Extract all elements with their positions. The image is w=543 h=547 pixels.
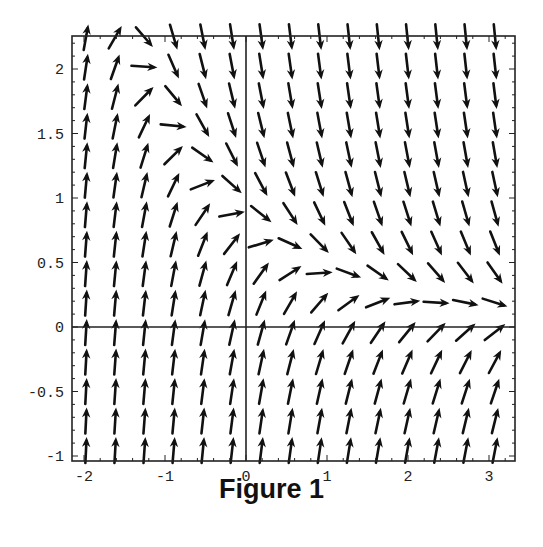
slope-arrow	[462, 172, 470, 197]
slope-arrow	[372, 232, 385, 255]
slope-arrow	[170, 25, 179, 50]
slope-arrow	[141, 349, 149, 375]
y-tick-label: 1	[55, 191, 64, 208]
slope-arrow	[249, 239, 274, 248]
slope-arrow	[316, 437, 324, 463]
slope-arrow	[199, 408, 207, 434]
slope-arrow	[170, 378, 178, 404]
slope-arrow	[453, 299, 478, 307]
slope-arrow	[307, 269, 333, 277]
slope-arrow	[316, 83, 324, 109]
slope-arrow	[164, 146, 182, 164]
slope-arrow	[287, 378, 295, 403]
y-tick-label: 2	[55, 62, 64, 79]
slope-arrow	[258, 437, 266, 463]
slope-arrow	[431, 350, 442, 374]
slope-arrow	[192, 148, 213, 163]
slope-arrow	[345, 142, 353, 167]
slope-arrow	[168, 55, 178, 79]
slope-arrow	[229, 84, 237, 109]
slope-arrow	[141, 319, 149, 345]
slope-arrow	[344, 202, 354, 226]
slope-arrow	[287, 349, 295, 374]
slope-arrow	[199, 349, 207, 375]
slope-arrow	[342, 233, 357, 254]
slope-arrow	[374, 202, 383, 227]
slope-arrow	[251, 206, 271, 222]
slope-arrow	[428, 323, 446, 342]
slope-arrow	[283, 203, 297, 225]
slope-arrow	[197, 114, 210, 137]
slope-arrow	[287, 24, 295, 50]
slope-arrow	[316, 24, 324, 50]
slope-arrow	[433, 408, 441, 433]
slope-arrow	[258, 83, 266, 109]
slope-arrow	[316, 349, 325, 374]
slope-arrow	[258, 54, 266, 80]
slope-arrow	[491, 142, 499, 168]
slope-arrow	[140, 408, 148, 434]
slope-arrow	[374, 83, 382, 109]
slope-arrow	[404, 408, 412, 433]
slope-arrow	[140, 437, 148, 463]
slope-arrow	[462, 113, 470, 139]
slope-arrow	[345, 54, 353, 80]
slope-arrow	[141, 231, 149, 257]
slope-arrow	[229, 54, 237, 80]
slope-arrow	[170, 231, 178, 256]
slope-arrow	[111, 378, 119, 404]
slope-arrow	[82, 260, 90, 286]
slope-arrow	[170, 349, 178, 375]
slope-arrow	[431, 232, 442, 256]
slope-arrow	[199, 319, 207, 345]
slope-arrow	[111, 260, 119, 286]
slope-arrow	[492, 408, 500, 433]
slope-arrow	[490, 232, 500, 256]
y-tick-label: -0.5	[28, 385, 64, 402]
slope-arrow	[257, 143, 266, 168]
slope-arrow	[111, 54, 120, 79]
slope-arrow	[141, 378, 149, 404]
slope-arrow	[111, 290, 119, 316]
y-tick-label: 0.5	[37, 256, 64, 273]
slope-arrow	[199, 378, 207, 404]
slope-arrow	[287, 54, 295, 80]
slope-arrow	[311, 234, 329, 253]
slope-arrow	[395, 298, 421, 306]
slope-arrow	[492, 172, 500, 197]
slope-arrow	[433, 202, 442, 227]
slope-arrow	[228, 113, 237, 138]
y-tick-label: 1.5	[37, 127, 64, 144]
slope-arrow	[170, 290, 178, 316]
slope-arrow	[491, 24, 499, 50]
slope-arrow	[404, 142, 412, 168]
slope-arrow	[345, 24, 353, 50]
y-tick-label: -1	[46, 449, 64, 466]
slope-arrow	[311, 293, 328, 313]
slope-arrow	[345, 408, 353, 434]
slope-arrow	[228, 408, 236, 434]
slope-arrow	[111, 319, 119, 345]
slope-arrow	[165, 86, 182, 106]
slope-arrow	[462, 437, 470, 463]
slope-arrow	[404, 379, 413, 404]
slope-arrow	[343, 321, 356, 344]
slope-arrow	[287, 143, 295, 168]
slope-arrow	[229, 319, 237, 344]
slope-arrow	[433, 379, 442, 404]
slope-arrow	[219, 209, 245, 217]
slope-arrow	[491, 379, 500, 404]
slope-arrow	[492, 202, 500, 227]
slope-arrow	[227, 261, 237, 285]
slope-arrow	[139, 114, 150, 138]
slope-arrow	[141, 260, 149, 286]
slope-arrow	[170, 437, 178, 463]
slope-arrow	[483, 299, 508, 308]
slope-arrow	[345, 437, 353, 463]
slope-arrow	[198, 231, 208, 255]
slope-arrow	[375, 113, 383, 139]
slope-arrow	[82, 54, 90, 80]
slope-arrow	[433, 142, 441, 168]
slope-arrow	[346, 172, 354, 197]
slope-arrow	[433, 54, 441, 80]
